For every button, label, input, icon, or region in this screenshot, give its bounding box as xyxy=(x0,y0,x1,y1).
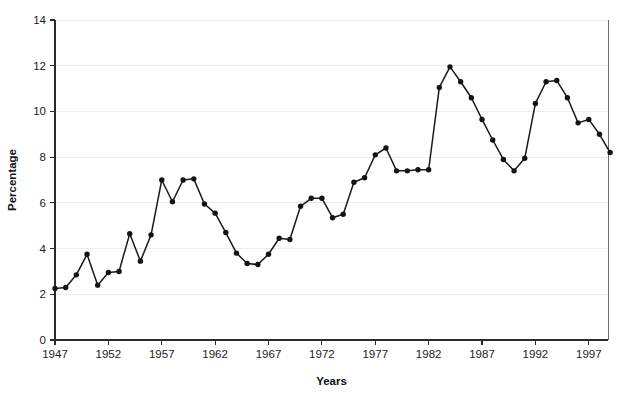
y-tick-label-6: 6 xyxy=(40,197,46,209)
data-point xyxy=(170,199,175,204)
data-point xyxy=(148,232,153,237)
y-tick-label-2: 2 xyxy=(40,288,46,300)
data-point xyxy=(469,95,474,100)
data-point xyxy=(266,252,271,257)
data-point xyxy=(362,175,367,180)
x-tick-label-1967: 1967 xyxy=(256,348,282,360)
y-tick-label-14: 14 xyxy=(33,14,46,26)
data-point xyxy=(127,231,132,236)
y-tick-label-4: 4 xyxy=(40,243,47,255)
data-point xyxy=(63,285,68,290)
data-point xyxy=(373,152,378,157)
x-tick-label-1977: 1977 xyxy=(362,348,388,360)
x-tick-label-1947: 1947 xyxy=(42,348,68,360)
y-tick-label-10: 10 xyxy=(33,105,46,117)
data-point xyxy=(116,269,121,274)
data-point xyxy=(159,177,164,182)
data-point xyxy=(383,145,388,150)
data-point xyxy=(95,282,100,287)
data-point xyxy=(298,204,303,209)
x-tick-label-1952: 1952 xyxy=(96,348,122,360)
data-point xyxy=(276,236,281,241)
x-tick-label-1997: 1997 xyxy=(576,348,602,360)
data-point xyxy=(319,196,324,201)
data-point xyxy=(458,79,463,84)
data-point xyxy=(234,250,239,255)
data-point xyxy=(255,262,260,267)
data-point xyxy=(415,167,420,172)
data-point xyxy=(106,270,111,275)
data-point xyxy=(575,120,580,125)
x-tick-label-1957: 1957 xyxy=(149,348,175,360)
data-point xyxy=(394,168,399,173)
chart-container: 02468101214 1947195219571962196719721977… xyxy=(0,0,622,396)
x-tick-label-1992: 1992 xyxy=(523,348,549,360)
data-point xyxy=(212,210,217,215)
data-point xyxy=(138,258,143,263)
x-tick-label-1972: 1972 xyxy=(309,348,335,360)
data-point xyxy=(586,117,591,122)
data-point xyxy=(191,176,196,181)
data-point xyxy=(84,252,89,257)
x-tick-label-1982: 1982 xyxy=(416,348,442,360)
data-point xyxy=(533,101,538,106)
data-point xyxy=(554,78,559,83)
data-point xyxy=(52,286,57,291)
data-point xyxy=(490,137,495,142)
data-point xyxy=(244,261,249,266)
data-point xyxy=(597,132,602,137)
data-point xyxy=(565,95,570,100)
data-point xyxy=(341,212,346,217)
data-point xyxy=(437,85,442,90)
line-chart: 02468101214 1947195219571962196719721977… xyxy=(0,0,622,396)
x-tick-label-1962: 1962 xyxy=(202,348,228,360)
data-point xyxy=(426,167,431,172)
x-tick-label-1987: 1987 xyxy=(469,348,495,360)
data-point xyxy=(405,168,410,173)
data-point xyxy=(223,230,228,235)
data-point xyxy=(351,180,356,185)
data-point xyxy=(522,156,527,161)
data-point xyxy=(180,177,185,182)
data-point xyxy=(479,117,484,122)
y-axis-title: Percentage xyxy=(6,149,18,211)
data-point xyxy=(287,237,292,242)
data-point xyxy=(447,64,452,69)
x-axis-title: Years xyxy=(316,375,347,387)
data-point xyxy=(202,201,207,206)
y-tick-label-0: 0 xyxy=(40,334,46,346)
data-point xyxy=(501,157,506,162)
data-point xyxy=(607,150,612,155)
data-point xyxy=(74,272,79,277)
y-tick-label-8: 8 xyxy=(40,151,46,163)
data-point xyxy=(543,79,548,84)
data-point xyxy=(309,196,314,201)
data-point xyxy=(511,168,516,173)
y-tick-label-12: 12 xyxy=(33,60,46,72)
data-point xyxy=(330,215,335,220)
